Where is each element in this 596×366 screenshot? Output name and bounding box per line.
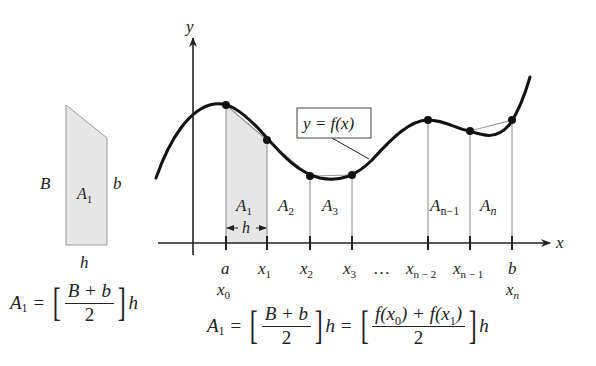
fraction-1-numerator: B + b (262, 304, 311, 327)
tick-label-a: a (221, 259, 230, 278)
tick-label-x0: x0 (216, 280, 231, 301)
formula-lhs: A (207, 315, 219, 337)
tick-label-x2: x2 (299, 259, 313, 280)
fraction-1: B + b 2 (262, 304, 311, 349)
fraction-1-denominator: 2 (282, 327, 292, 349)
formula-h: h (128, 292, 138, 314)
formula-lhs-sub: 1 (22, 301, 28, 316)
tick-label-xn: xn (505, 280, 520, 301)
tick-ellipsis: … (373, 259, 390, 278)
trapezoid-left-label: B (40, 174, 51, 193)
formula-equals-2: = (341, 315, 352, 337)
h-width-label: h (242, 219, 250, 236)
trapezoid-area-formula: A1 = [ B + b 2 ] h (10, 281, 138, 326)
fraction-denominator: 2 (85, 304, 95, 326)
fraction: B + b 2 (65, 281, 114, 326)
formula-h-2: h (479, 315, 489, 337)
fraction-numerator: B + b (65, 281, 114, 304)
formula-lhs-sub: 1 (219, 324, 225, 339)
left-bracket: [ (53, 283, 61, 323)
x-axis-label: x (555, 233, 564, 252)
right-bracket: ] (315, 306, 323, 346)
tick-label-x3: x3 (342, 259, 357, 280)
trapezoid-right-label: b (113, 174, 122, 193)
left-bracket: [ (250, 306, 258, 346)
area-label-2: A2 (277, 196, 294, 217)
tick-label-x-n-minus-1: xn − 1 (452, 259, 483, 280)
fraction-2-numerator: f(x0) + f(x1) (372, 304, 465, 327)
right-bracket: ] (118, 283, 126, 323)
fraction-2-denominator: 2 (414, 327, 424, 349)
graph-area-formula: A1 = [ B + b 2 ] h = [ f(x0) + f(x1) 2 ]… (207, 304, 489, 349)
formula-lhs: A (10, 292, 22, 314)
area-label-n-minus-1: An−1 (429, 196, 459, 218)
standalone-trapezoid (66, 105, 107, 245)
formula-equals: = (34, 292, 45, 314)
formula-h-1: h (325, 315, 335, 337)
tick-label-x-n-minus-2: xn − 2 (405, 259, 436, 280)
tick-label-x1: x1 (257, 259, 271, 280)
curve-label: y = f(x) (301, 114, 354, 133)
right-bracket-2: ] (469, 306, 477, 346)
trapezoid-base-label: h (80, 253, 89, 272)
left-bracket-2: [ (360, 306, 368, 346)
y-axis-label: y (184, 17, 194, 36)
area-label-3: A3 (321, 196, 338, 217)
fraction-2: f(x0) + f(x1) 2 (372, 304, 465, 349)
formula-equals: = (231, 315, 242, 337)
tick-label-b: b (508, 259, 517, 278)
curve-label-leader (332, 138, 369, 159)
area-label-n: An (479, 196, 496, 218)
